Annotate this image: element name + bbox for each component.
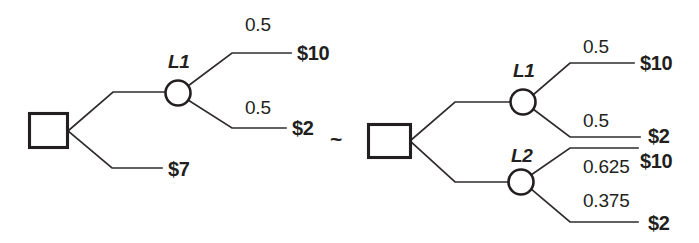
right-payoff-label-l2-down: $2 (648, 212, 670, 234)
left-chance-node-l1[interactable] (166, 81, 191, 106)
right-payoff-label-l1-up: $10 (640, 52, 672, 74)
right-chance-node-l1[interactable] (511, 90, 536, 115)
left-outcome-up-10-line (188, 53, 291, 86)
left-node-label-l1: L1 (168, 51, 190, 72)
right-chance-node-l2[interactable] (509, 170, 534, 195)
right-decision-node[interactable] (369, 125, 411, 158)
right-prob-label-l2-down: 0.375 (583, 190, 630, 211)
right-prob-label-l2-up: 0.625 (583, 156, 630, 177)
left-payoff-label-up: $10 (297, 42, 329, 64)
right-payoff-label-l1-down: $2 (648, 125, 670, 147)
right-prob-label-l1-down: 0.5 (583, 110, 609, 131)
left-branch-lower-stem (68, 131, 162, 168)
tree-canvas: L1 0.5 $10 0.5 $2 $7 ~ L1 L2 0.5 $10 0.5… (0, 0, 699, 243)
left-prob-label-down: 0.5 (245, 97, 271, 118)
right-node-label-l2: L2 (511, 145, 533, 166)
right-branch-upper-stem (410, 102, 510, 141)
left-payoff-label-down: $2 (292, 117, 314, 139)
right-branch-lower-stem (410, 141, 508, 182)
left-outcome-down-2-line (188, 100, 286, 128)
left-payoff-label-sure: $7 (168, 158, 190, 180)
right-node-label-l1: L1 (513, 60, 535, 81)
equivalence-relation-symbol: ~ (330, 127, 342, 150)
right-prob-label-l1-up: 0.5 (583, 36, 609, 57)
right-payoff-label-l2-up: $10 (640, 150, 672, 172)
left-prob-label-up: 0.5 (245, 14, 271, 35)
decision-tree-diagram: L1 0.5 $10 0.5 $2 $7 ~ L1 L2 0.5 $10 0.5… (0, 0, 699, 243)
right-outcome-l1-up-10-line (533, 63, 634, 95)
left-branch-upper-stem (68, 92, 165, 131)
left-decision-node[interactable] (30, 114, 68, 148)
